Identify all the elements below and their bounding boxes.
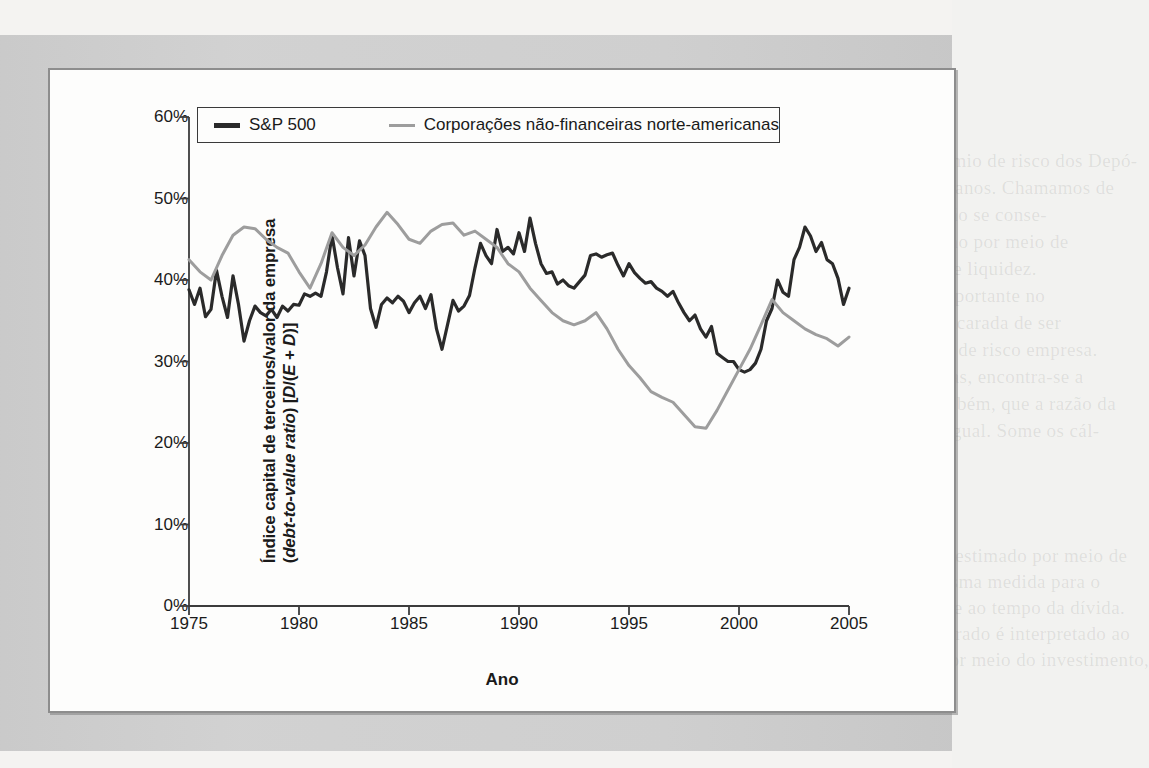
legend-label-nonfinancial: Corporações não-financeiras norte-americ… <box>424 115 779 135</box>
legend-swatch-line-gray-icon <box>389 124 415 127</box>
series-line-1 <box>189 212 849 428</box>
chart-panel: Índice capital de terceiros/valor da emp… <box>48 68 956 713</box>
x-axis-title: Ano <box>50 670 954 690</box>
legend-swatch-line-dark-icon <box>214 123 240 128</box>
legend-entry-nonfinancial: Corporações não-financeiras norte-americ… <box>389 115 779 135</box>
legend-entry-sp500: S&P 500 <box>214 115 316 135</box>
plot-area <box>50 70 956 713</box>
legend-label-sp500: S&P 500 <box>249 115 316 135</box>
chart-legend: S&P 500 Corporações não-financeiras nort… <box>197 107 780 143</box>
line-chart: Índice capital de terceiros/valor da emp… <box>50 70 954 711</box>
